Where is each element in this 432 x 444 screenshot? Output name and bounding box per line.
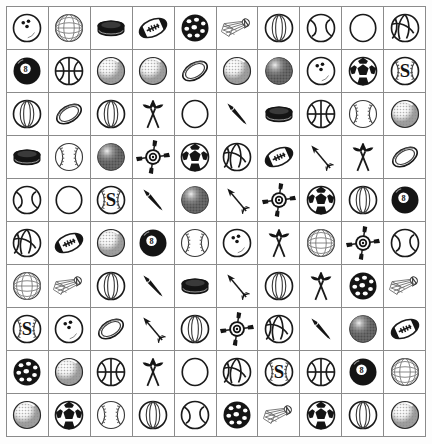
grid-cell-r10-c10[interactable]	[384, 394, 426, 437]
grid-cell-r10-c4[interactable]	[133, 394, 175, 437]
grid-cell-r4-c6[interactable]	[217, 136, 259, 179]
grid-cell-r8-c4[interactable]	[133, 308, 175, 351]
grid-cell-r6-c5[interactable]	[175, 222, 217, 265]
grid-cell-r10-c1[interactable]	[7, 394, 49, 437]
grid-cell-r2-c1[interactable]: 8	[7, 50, 49, 93]
grid-cell-r3-c10[interactable]	[384, 93, 426, 136]
grid-cell-r7-c6[interactable]	[217, 265, 259, 308]
grid-cell-r4-c7[interactable]	[258, 136, 300, 179]
grid-cell-r5-c7[interactable]	[258, 179, 300, 222]
grid-cell-r10-c3[interactable]	[91, 394, 133, 437]
grid-cell-r4-c10[interactable]	[384, 136, 426, 179]
grid-cell-r2-c5[interactable]	[175, 50, 217, 93]
grid-cell-r3-c3[interactable]	[91, 93, 133, 136]
grid-cell-r3-c2[interactable]	[49, 93, 91, 136]
grid-cell-r8-c3[interactable]	[91, 308, 133, 351]
grid-cell-r10-c5[interactable]	[175, 394, 217, 437]
grid-cell-r9-c10[interactable]	[384, 351, 426, 394]
grid-cell-r2-c4[interactable]	[133, 50, 175, 93]
grid-cell-r3-c4[interactable]	[133, 93, 175, 136]
grid-cell-r1-c1[interactable]	[7, 7, 49, 50]
grid-cell-r4-c5[interactable]	[175, 136, 217, 179]
grid-cell-r9-c2[interactable]	[49, 351, 91, 394]
grid-cell-r6-c7[interactable]	[258, 222, 300, 265]
grid-cell-r7-c8[interactable]	[300, 265, 342, 308]
grid-cell-r7-c1[interactable]	[7, 265, 49, 308]
grid-cell-r10-c8[interactable]	[300, 394, 342, 437]
grid-cell-r9-c8[interactable]	[300, 351, 342, 394]
grid-cell-r8-c5[interactable]	[175, 308, 217, 351]
grid-cell-r8-c10[interactable]	[384, 308, 426, 351]
grid-cell-r2-c2[interactable]	[49, 50, 91, 93]
grid-cell-r2-c9[interactable]	[342, 50, 384, 93]
grid-cell-r5-c6[interactable]	[217, 179, 259, 222]
grid-cell-r9-c1[interactable]	[7, 351, 49, 394]
grid-cell-r4-c3[interactable]	[91, 136, 133, 179]
grid-cell-r5-c8[interactable]	[300, 179, 342, 222]
grid-cell-r8-c9[interactable]	[342, 308, 384, 351]
grid-cell-r5-c3[interactable]: S	[91, 179, 133, 222]
grid-cell-r5-c1[interactable]	[7, 179, 49, 222]
grid-cell-r6-c2[interactable]	[49, 222, 91, 265]
grid-cell-r10-c7[interactable]	[258, 394, 300, 437]
grid-cell-r4-c4[interactable]	[133, 136, 175, 179]
grid-cell-r1-c10[interactable]	[384, 7, 426, 50]
grid-cell-r8-c8[interactable]	[300, 308, 342, 351]
grid-cell-r1-c8[interactable]	[300, 7, 342, 50]
grid-cell-r8-c2[interactable]	[49, 308, 91, 351]
grid-cell-r5-c2[interactable]	[49, 179, 91, 222]
grid-cell-r1-c6[interactable]	[217, 7, 259, 50]
grid-cell-r4-c9[interactable]	[342, 136, 384, 179]
grid-cell-r7-c2[interactable]	[49, 265, 91, 308]
grid-cell-r6-c1[interactable]	[7, 222, 49, 265]
grid-cell-r5-c4[interactable]	[133, 179, 175, 222]
grid-cell-r6-c10[interactable]	[384, 222, 426, 265]
grid-cell-r4-c2[interactable]	[49, 136, 91, 179]
grid-cell-r4-c1[interactable]	[7, 136, 49, 179]
grid-cell-r5-c5[interactable]	[175, 179, 217, 222]
grid-cell-r6-c6[interactable]	[217, 222, 259, 265]
grid-cell-r3-c6[interactable]	[217, 93, 259, 136]
grid-cell-r1-c4[interactable]	[133, 7, 175, 50]
grid-cell-r3-c8[interactable]	[300, 93, 342, 136]
grid-cell-r4-c8[interactable]	[300, 136, 342, 179]
grid-cell-r7-c3[interactable]	[91, 265, 133, 308]
grid-cell-r8-c6[interactable]	[217, 308, 259, 351]
grid-cell-r9-c4[interactable]	[133, 351, 175, 394]
grid-cell-r9-c6[interactable]	[217, 351, 259, 394]
grid-cell-r6-c3[interactable]	[91, 222, 133, 265]
grid-cell-r2-c3[interactable]	[91, 50, 133, 93]
grid-cell-r2-c6[interactable]	[217, 50, 259, 93]
grid-cell-r2-c7[interactable]	[258, 50, 300, 93]
grid-cell-r7-c5[interactable]	[175, 265, 217, 308]
grid-cell-r7-c10[interactable]	[384, 265, 426, 308]
grid-cell-r3-c7[interactable]	[258, 93, 300, 136]
grid-cell-r8-c1[interactable]: S	[7, 308, 49, 351]
grid-cell-r6-c8[interactable]	[300, 222, 342, 265]
grid-cell-r1-c3[interactable]	[91, 7, 133, 50]
grid-cell-r9-c9[interactable]: 8	[342, 351, 384, 394]
grid-cell-r3-c9[interactable]	[342, 93, 384, 136]
grid-cell-r2-c8[interactable]	[300, 50, 342, 93]
grid-cell-r7-c4[interactable]	[133, 265, 175, 308]
grid-cell-r3-c5[interactable]	[175, 93, 217, 136]
grid-cell-r1-c5[interactable]	[175, 7, 217, 50]
grid-cell-r10-c6[interactable]	[217, 394, 259, 437]
grid-cell-r10-c2[interactable]	[49, 394, 91, 437]
grid-cell-r3-c1[interactable]	[7, 93, 49, 136]
grid-cell-r1-c7[interactable]	[258, 7, 300, 50]
grid-cell-r9-c5[interactable]	[175, 351, 217, 394]
grid-cell-r1-c2[interactable]	[49, 7, 91, 50]
grid-cell-r5-c9[interactable]	[342, 179, 384, 222]
grid-cell-r8-c7[interactable]	[258, 308, 300, 351]
grid-cell-r6-c9[interactable]	[342, 222, 384, 265]
grid-cell-r9-c3[interactable]	[91, 351, 133, 394]
grid-cell-r9-c7[interactable]: S	[258, 351, 300, 394]
grid-cell-r7-c7[interactable]	[258, 265, 300, 308]
grid-cell-r1-c9[interactable]	[342, 7, 384, 50]
grid-cell-r7-c9[interactable]	[342, 265, 384, 308]
grid-cell-r10-c9[interactable]	[342, 394, 384, 437]
grid-cell-r2-c10[interactable]: S	[384, 50, 426, 93]
grid-cell-r6-c4[interactable]: 8	[133, 222, 175, 265]
grid-cell-r5-c10[interactable]: 8	[384, 179, 426, 222]
